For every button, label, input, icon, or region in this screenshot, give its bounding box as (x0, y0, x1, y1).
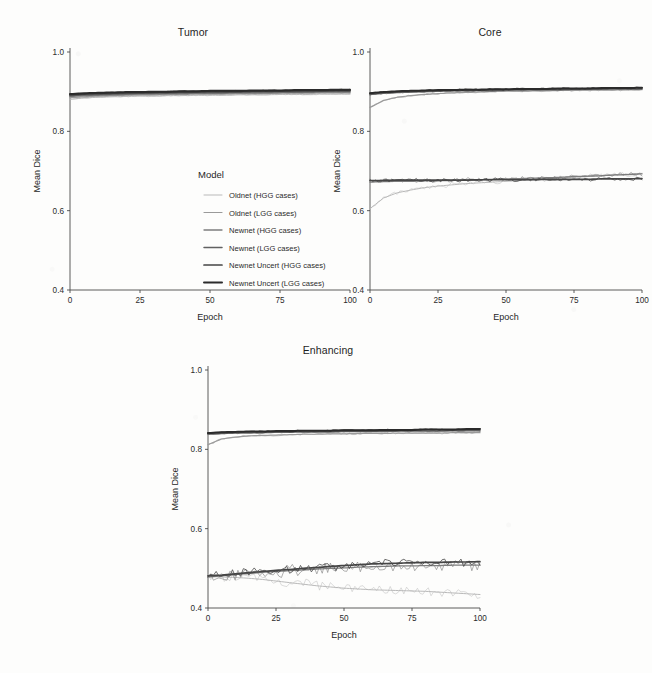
legend-item-label: Oldnet (HGG cases) (229, 191, 298, 200)
panel-enhancing: Enhancing 0.40.60.81.00255075100EpochMea… (168, 344, 488, 654)
svg-text:Epoch: Epoch (197, 312, 223, 322)
legend-title: Model (198, 169, 224, 180)
svg-text:0.6: 0.6 (191, 525, 203, 534)
legend-item-label: Newnet Uncert (LGG cases) (229, 279, 325, 288)
svg-text:0.8: 0.8 (53, 127, 65, 136)
svg-text:75: 75 (275, 296, 285, 305)
svg-text:1.0: 1.0 (191, 366, 203, 375)
svg-text:Mean Dice: Mean Dice (32, 149, 42, 192)
svg-text:0: 0 (68, 296, 73, 305)
legend-item[interactable]: Newnet (HGG cases) (204, 226, 302, 235)
svg-text:Mean Dice: Mean Dice (170, 467, 180, 510)
svg-text:0.4: 0.4 (53, 286, 65, 295)
svg-text:0.4: 0.4 (353, 286, 365, 295)
svg-text:Epoch: Epoch (493, 312, 519, 322)
legend-item-label: Newnet (HGG cases) (229, 226, 302, 235)
svg-text:75: 75 (407, 614, 417, 623)
svg-text:Epoch: Epoch (331, 630, 357, 640)
legend-item[interactable]: Oldnet (LGG cases) (204, 209, 297, 218)
legend-item[interactable]: Oldnet (HGG cases) (204, 191, 298, 200)
svg-text:0.6: 0.6 (53, 207, 65, 216)
svg-text:0: 0 (206, 614, 211, 623)
svg-text:0: 0 (368, 296, 373, 305)
panel-core: Core 0.40.60.81.00255075100EpochMean Dic… (330, 26, 650, 336)
svg-text:1.0: 1.0 (53, 48, 65, 57)
legend-item-label: Oldnet (LGG cases) (229, 209, 297, 218)
svg-text:75: 75 (569, 296, 579, 305)
legend-item-label: Newnet Uncert (HGG cases) (229, 261, 326, 270)
plot-core: 0.40.60.81.00255075100EpochMean Dice (330, 26, 650, 336)
plot-enhancing: 0.40.60.81.00255075100EpochMean Dice (168, 344, 488, 654)
panel-tumor: Tumor 0.40.60.81.00255075100EpochMean Di… (28, 26, 358, 336)
plot-tumor: 0.40.60.81.00255075100EpochMean DiceMode… (28, 26, 358, 336)
svg-text:0.4: 0.4 (191, 604, 203, 613)
svg-text:0.6: 0.6 (353, 207, 365, 216)
legend-item[interactable]: Newnet Uncert (HGG cases) (204, 261, 326, 270)
svg-text:0.8: 0.8 (191, 445, 203, 454)
legend-item-label: Newnet (LGG cases) (229, 244, 300, 253)
svg-text:Mean Dice: Mean Dice (332, 149, 342, 192)
svg-text:25: 25 (271, 614, 281, 623)
svg-text:50: 50 (501, 296, 511, 305)
svg-text:0.8: 0.8 (353, 127, 365, 136)
svg-text:25: 25 (135, 296, 145, 305)
svg-text:25: 25 (433, 296, 443, 305)
svg-text:50: 50 (339, 614, 349, 623)
svg-text:1.0: 1.0 (353, 48, 365, 57)
svg-text:100: 100 (635, 296, 649, 305)
legend-item[interactable]: Newnet Uncert (LGG cases) (204, 279, 325, 288)
svg-text:100: 100 (473, 614, 487, 623)
legend-item[interactable]: Newnet (LGG cases) (204, 244, 300, 253)
svg-text:50: 50 (205, 296, 215, 305)
